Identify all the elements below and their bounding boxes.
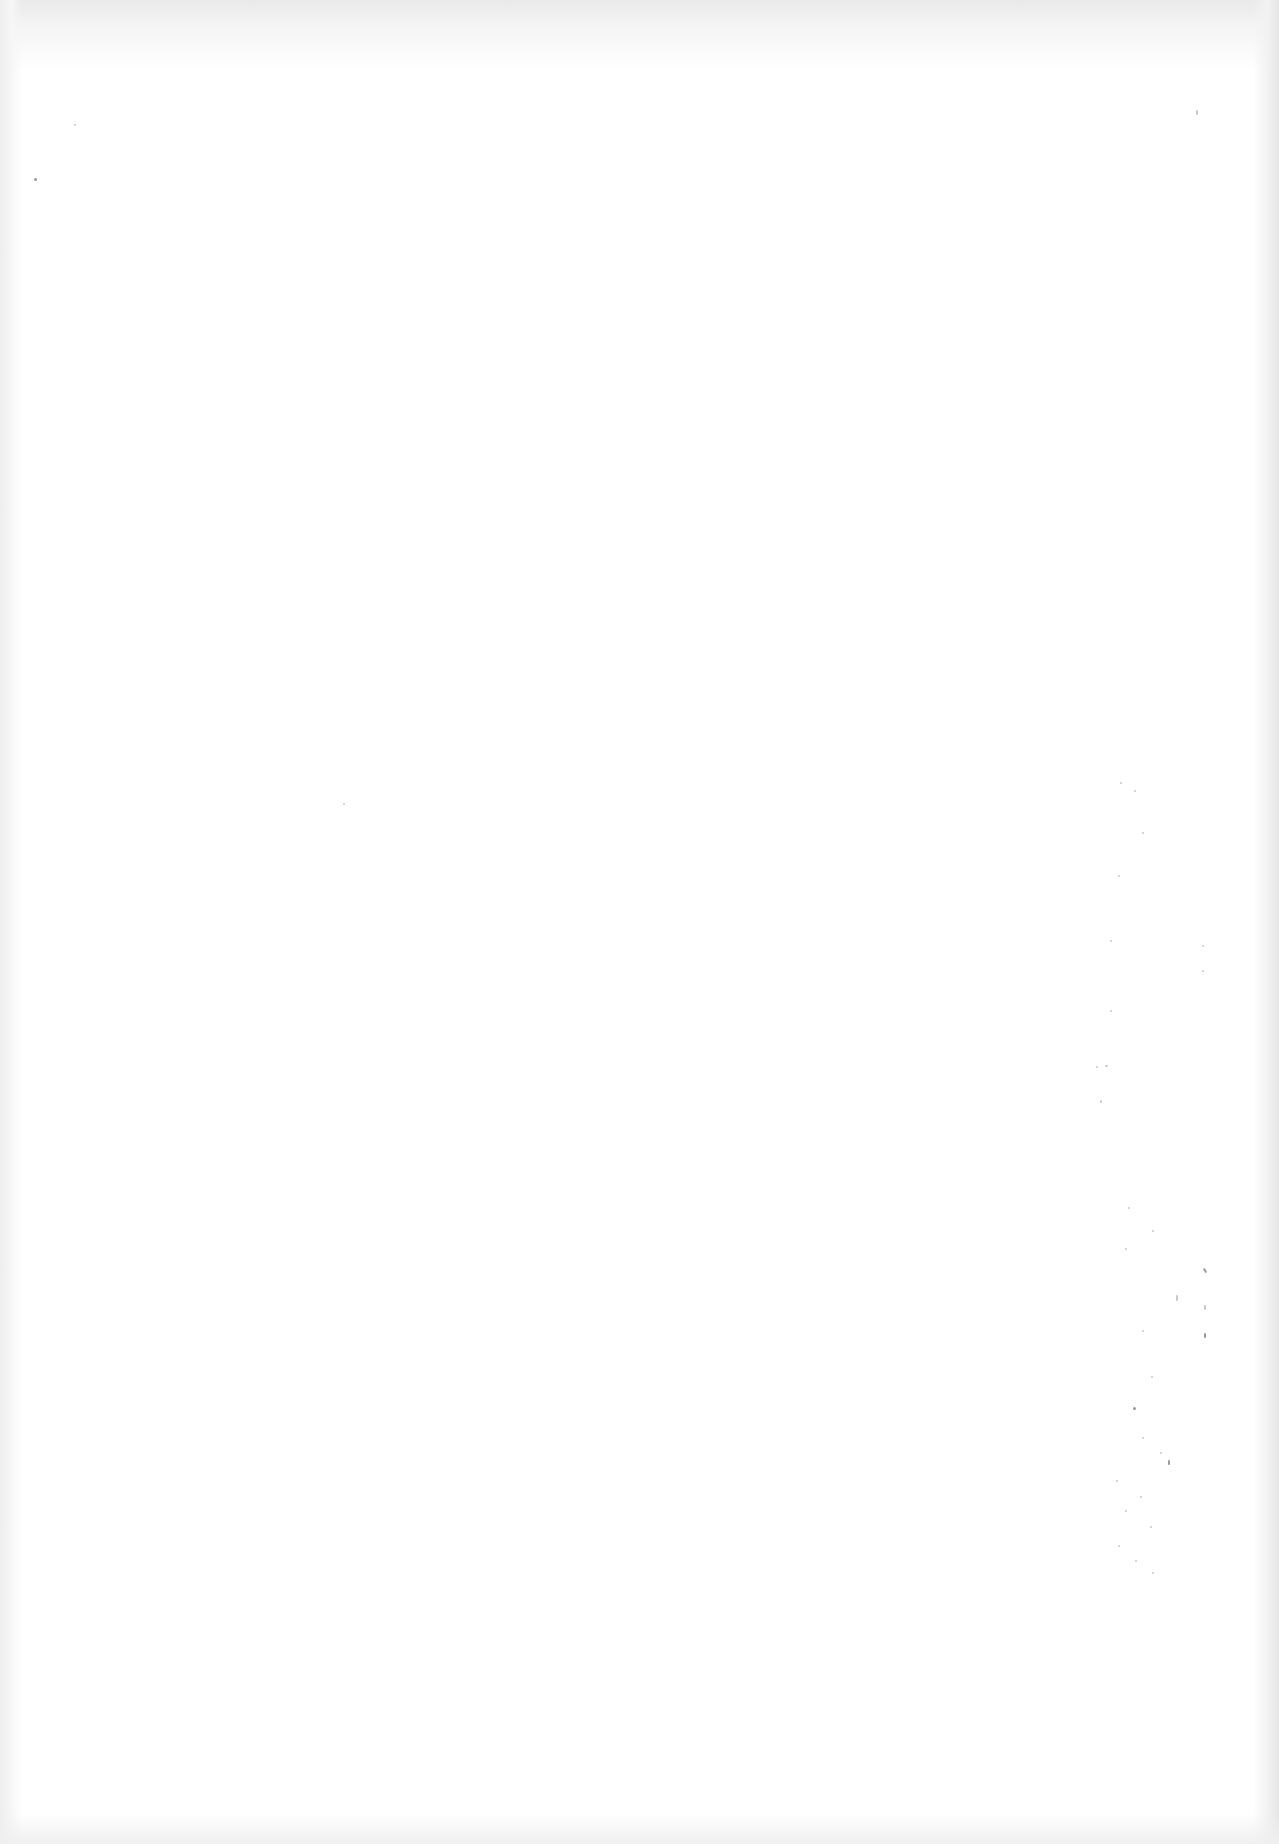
speck xyxy=(1203,1268,1207,1273)
speck xyxy=(1110,940,1112,942)
speck xyxy=(1202,970,1204,972)
speck xyxy=(1140,1496,1142,1498)
speck xyxy=(1120,782,1122,784)
speck xyxy=(1125,1248,1127,1250)
scan-edge-shadow-bottom xyxy=(0,1814,1279,1844)
speck xyxy=(1096,1066,1098,1068)
scan-edge-shadow-left xyxy=(0,0,22,1844)
speck xyxy=(1152,1572,1154,1574)
speck xyxy=(1204,1305,1206,1310)
blank-scanned-page xyxy=(0,0,1279,1844)
speck xyxy=(34,178,37,181)
speck xyxy=(1118,875,1120,877)
speck xyxy=(1142,832,1144,834)
speck xyxy=(1125,1510,1127,1512)
speck xyxy=(1133,1407,1136,1410)
speck xyxy=(1150,1526,1152,1528)
speck xyxy=(1135,1560,1137,1562)
speck xyxy=(343,803,345,805)
speck xyxy=(1134,790,1136,792)
speck xyxy=(1202,945,1204,947)
speck xyxy=(1128,1207,1130,1209)
speck xyxy=(1105,1065,1108,1067)
speck xyxy=(1160,1452,1162,1454)
speck xyxy=(1168,1460,1170,1465)
speck xyxy=(1151,1376,1153,1378)
speck xyxy=(1100,1100,1102,1103)
speck xyxy=(74,124,76,126)
speck xyxy=(1142,1437,1144,1439)
speck xyxy=(1204,1333,1206,1338)
scan-edge-shadow-right xyxy=(1253,0,1279,1844)
speck xyxy=(1152,1230,1154,1232)
speck xyxy=(1110,1010,1112,1012)
speck xyxy=(1176,1295,1178,1301)
speck xyxy=(1142,1330,1144,1332)
speck xyxy=(1196,110,1198,115)
speck xyxy=(1116,1480,1118,1482)
scan-edge-shadow-top xyxy=(0,0,1279,70)
speck xyxy=(1118,1545,1120,1547)
